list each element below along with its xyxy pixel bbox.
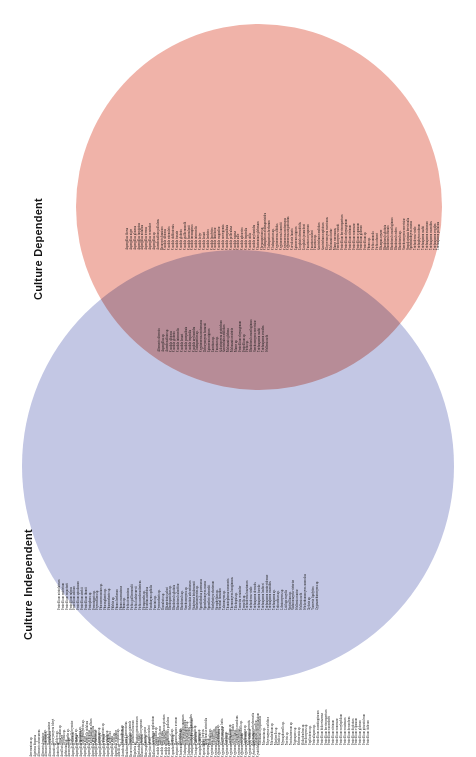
species-name: Aspergillus versicolor bbox=[115, 713, 119, 757]
species-name: Fusarium culmorum bbox=[132, 710, 136, 745]
species-name: Penicillium bialowiezense bbox=[321, 710, 325, 745]
species-name: Aspergillus clavatus bbox=[72, 713, 76, 757]
species-name-grid: Daedalea sp.Davidiella tassianaDebaryomy… bbox=[44, 710, 162, 745]
species-name: Aspergillus penicillioides bbox=[92, 713, 96, 757]
species-name: Cladosporium cladosporioides bbox=[184, 713, 188, 757]
species-name: Ascomycota sp. bbox=[68, 713, 72, 757]
culture-dependent-label: Culture Dependent bbox=[32, 198, 44, 300]
independent-only-species-list-row3: Acremonium sp.Agaricus bisporusAlternari… bbox=[30, 713, 100, 757]
species-name: Penicillium expansum bbox=[355, 710, 359, 745]
species-name: Eremothecium sp. bbox=[102, 710, 106, 745]
species-name: Mortierella sp. bbox=[275, 710, 279, 745]
species-name: Penicillium camemberti bbox=[328, 710, 332, 745]
species-name: Candida dubliniensis bbox=[161, 713, 165, 757]
species-name: Bulleromyces albus bbox=[153, 713, 157, 757]
species-name: Aspergillus niger bbox=[84, 713, 88, 757]
species-name: Capnobotryella sp. bbox=[172, 713, 176, 757]
species-name: Geosmithia sp. bbox=[155, 710, 159, 745]
species-name: Penicillium decumbens bbox=[348, 710, 352, 745]
species-name: Fusarium poae bbox=[144, 710, 148, 745]
species-name: Penicillium digitatum bbox=[352, 710, 356, 745]
species-name: Penicillium aurantiogriseum bbox=[317, 710, 321, 745]
species-name: Penicillium citrinum bbox=[332, 710, 336, 745]
species-name: Gloeophyllum sepiarium bbox=[163, 710, 167, 745]
species-name: Fusarium solani bbox=[148, 710, 152, 745]
species-name: Lecanicillium sp. bbox=[229, 710, 233, 745]
species-name: Fomes fomentarius bbox=[125, 710, 129, 745]
species-name: Didymella bryoniae bbox=[71, 710, 75, 745]
species-name: Hypocrea sp. bbox=[198, 710, 202, 745]
species-name: Chaetomium globosum bbox=[180, 713, 184, 757]
culture-independent-circle bbox=[22, 250, 454, 682]
species-name: Nigrospora sp. bbox=[294, 710, 298, 745]
species-name: Cryptococcus magnus bbox=[234, 713, 238, 757]
species-name: Cryptococcus carnescens bbox=[215, 713, 219, 757]
species-name: Alternaria brassicae bbox=[42, 713, 46, 757]
species-name: Acremonium sp. bbox=[30, 713, 34, 757]
species-name: Cryptococcus saitoi bbox=[241, 713, 245, 757]
species-name: Davidiella tassiana bbox=[48, 710, 52, 745]
species-name: Armillaria mellea bbox=[61, 713, 65, 757]
species-name: Penicillium crustosum bbox=[344, 710, 348, 745]
species-name: Bipolaris sp. bbox=[134, 713, 138, 757]
species-name: Aspergillus flavus bbox=[76, 713, 80, 757]
species-name: Mrakia sp. bbox=[278, 710, 282, 745]
species-name: Amanita sp. bbox=[53, 713, 57, 757]
species-name: Candida boidinii bbox=[157, 713, 161, 757]
species-name: Papiliotrema sp. bbox=[309, 710, 313, 745]
species-name: Exidia sp. bbox=[113, 710, 117, 745]
species-name: Exophiala sp. bbox=[117, 710, 121, 745]
species-name: Alternaria infectoria bbox=[45, 713, 49, 757]
species-name: Cryptococcus albidus bbox=[211, 713, 215, 757]
species-name: Guehomyces pullulans bbox=[167, 710, 171, 745]
species-name: Fomitopsis pinicola bbox=[129, 710, 133, 745]
species-name: Helotiales sp. bbox=[179, 710, 183, 745]
species-name: Cryptococcus gattii bbox=[226, 713, 230, 757]
species-name: Mycosphaerella sp. bbox=[282, 710, 286, 745]
species-name: Devriesia sp. bbox=[63, 710, 67, 745]
species-name: Eutypa lata bbox=[109, 710, 113, 745]
species-name: Cryptococcus flavescens bbox=[222, 713, 226, 757]
species-name: Oidiodendron sp. bbox=[302, 710, 306, 745]
species-name: Diaporthe sp. bbox=[67, 710, 71, 745]
species-name: Peniculispora sp. bbox=[313, 710, 317, 745]
species-name: Ganoderma applanatum bbox=[152, 710, 156, 745]
species-name: Kondoa sp. bbox=[225, 710, 229, 745]
species-name: Bjerkandera adusta bbox=[138, 713, 142, 757]
species-name: Dekkera sp. bbox=[56, 710, 60, 745]
species-name: Penicillium corylophilum bbox=[340, 710, 344, 745]
species-name: Dioszegia sp. bbox=[75, 710, 79, 745]
species-name: Cryptococcus oeirensis bbox=[238, 713, 242, 757]
species-name: Dipodascus sp. bbox=[79, 710, 83, 745]
species-name: Botryosphaeria sp. bbox=[145, 713, 149, 757]
species-name: Aspergillus terreus bbox=[103, 713, 107, 757]
species-name: Emericella nidulans bbox=[86, 710, 90, 745]
species-name: Cladosporium herbarum bbox=[188, 713, 192, 757]
species-name: Aspergillus ochraceus bbox=[88, 713, 92, 757]
species-name: Nectria sp. bbox=[286, 710, 290, 745]
species-name: Basidiomycota sp. bbox=[126, 713, 130, 757]
species-name: Cryptococcus terreus bbox=[245, 713, 249, 757]
species-name: Fusarium oxysporum bbox=[140, 710, 144, 745]
species-name: Leptosphaeria maculans bbox=[236, 710, 240, 745]
species-name: Erysiphe sp. bbox=[106, 710, 110, 745]
species-name: Lentinula edodes bbox=[232, 710, 236, 745]
species-name: Heterobasidion annosum bbox=[182, 710, 186, 745]
species-name: Holtermanniella sp. bbox=[186, 710, 190, 745]
species-name: Hyphodontia sp. bbox=[194, 710, 198, 745]
species-name: Alternaria arborescens bbox=[38, 713, 42, 757]
independent-only-species-list-row2: Daedalea sp.Davidiella tassianaDebaryomy… bbox=[44, 710, 162, 745]
species-name: Hannaella sp. bbox=[171, 710, 175, 745]
species-name: Hanseniaspora uvarum bbox=[175, 710, 179, 745]
venn-diagram: Culture Dependent Culture Independent As… bbox=[0, 0, 476, 757]
species-name: Irpex lacteus bbox=[202, 710, 206, 745]
species-name-grid: Acremonium sp.Agaricus bisporusAlternari… bbox=[30, 713, 100, 757]
species-name: Paecilomyces sp. bbox=[305, 710, 309, 745]
species-name: Debaryomyces fabryi bbox=[52, 710, 56, 745]
species-name: Marasmius sp. bbox=[263, 710, 267, 745]
species-name: Dendryphion sp. bbox=[59, 710, 63, 745]
species-name: Cryptococcus diffluens bbox=[218, 713, 222, 757]
species-name: Alternaria tenuissima bbox=[49, 713, 53, 757]
species-name: Coprinopsis sp. bbox=[207, 713, 211, 757]
species-name: Kabatiella sp. bbox=[213, 710, 217, 745]
